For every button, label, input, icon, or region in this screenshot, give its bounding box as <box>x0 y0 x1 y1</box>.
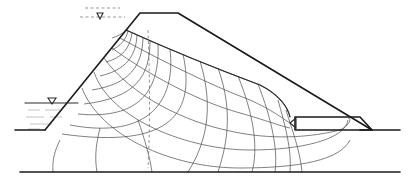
equipotential-line <box>238 76 255 172</box>
equipotential-line <box>258 84 276 172</box>
equipotential-lines <box>62 30 302 172</box>
dam-outline <box>45 13 372 130</box>
equipotential-line <box>62 54 186 138</box>
flow-line <box>53 140 60 172</box>
equipotential-line <box>70 49 171 128</box>
flow-net-grid <box>53 30 350 172</box>
reservoir-water-lines <box>26 110 62 129</box>
flow-line <box>94 72 348 150</box>
phreatic-level-triangle-icon <box>97 13 103 19</box>
equipotential-line <box>106 33 132 62</box>
flow-net-diagram <box>0 0 412 181</box>
equipotential-line <box>278 100 290 172</box>
flow-line <box>96 128 100 172</box>
equipotential-line <box>112 31 128 50</box>
flow-line <box>138 120 152 172</box>
equipotential-line <box>218 68 227 172</box>
vertical-flow-lines <box>53 120 152 172</box>
